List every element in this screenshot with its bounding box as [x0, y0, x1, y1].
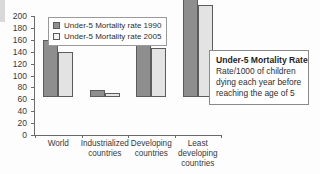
legend-swatch-1990-icon [53, 22, 60, 29]
legend-item-1990: Under-5 Mortality rate 1990 [53, 20, 161, 31]
y-tick-mark [31, 135, 34, 136]
y-tick-mark [31, 87, 34, 88]
y-tick-mark [31, 28, 34, 29]
y-tick-label: 160 [13, 36, 27, 44]
x-category-label: Least developing countries [171, 139, 226, 169]
annotation-title: Under-5 Mortality Rate [216, 55, 303, 66]
legend-swatch-2005-icon [53, 33, 60, 40]
bar-1990 [183, 0, 198, 97]
y-tick-label: 60 [18, 95, 27, 103]
annotation-box: Under-5 Mortality Rate Rate/1000 of chil… [209, 50, 309, 105]
x-tick-mark [221, 135, 222, 138]
y-axis: 020406080100120140160180200 [0, 14, 30, 139]
y-tick-label: 200 [13, 12, 27, 20]
y-tick-mark [31, 111, 34, 112]
bar-2005 [58, 52, 73, 97]
chart-figure: 020406080100120140160180200 WorldIndustr… [0, 0, 320, 174]
x-axis-labels: WorldIndustrialized countriesDeveloping … [35, 139, 221, 174]
x-tick-mark [128, 135, 129, 138]
y-tick-mark [31, 16, 34, 17]
bar-1990 [90, 90, 105, 97]
y-tick-label: 180 [13, 24, 27, 32]
legend-label-2005: Under-5 Mortality rate 2005 [64, 32, 161, 41]
y-tick-label: 120 [13, 60, 27, 68]
annotation-line-2: dying each year before [216, 77, 303, 88]
x-tick-mark [175, 135, 176, 138]
y-tick-label: 20 [18, 119, 27, 127]
y-tick-label: 140 [13, 48, 27, 56]
y-tick-mark [31, 64, 34, 65]
y-tick-label: 0 [22, 131, 27, 139]
annotation-line-1: Rate/1000 of children [216, 66, 303, 77]
x-tick-mark [82, 135, 83, 138]
annotation-line-3: reaching the age of 5 [216, 88, 303, 99]
bar-2005 [105, 93, 120, 97]
legend-label-1990: Under-5 Mortality rate 1990 [64, 21, 161, 30]
legend-item-2005: Under-5 Mortality rate 2005 [53, 31, 161, 42]
chart-legend: Under-5 Mortality rate 1990 Under-5 Mort… [48, 17, 167, 46]
bar-1990 [43, 40, 58, 97]
y-tick-mark [31, 99, 34, 100]
x-tick-mark [35, 135, 36, 138]
y-tick-label: 80 [18, 83, 27, 91]
y-tick-mark [31, 52, 34, 53]
y-tick-mark [31, 123, 34, 124]
y-tick-label: 100 [13, 72, 27, 80]
y-tick-mark [31, 76, 34, 77]
y-tick-mark [31, 40, 34, 41]
y-tick-label: 40 [18, 107, 27, 115]
bar-2005 [151, 48, 166, 97]
